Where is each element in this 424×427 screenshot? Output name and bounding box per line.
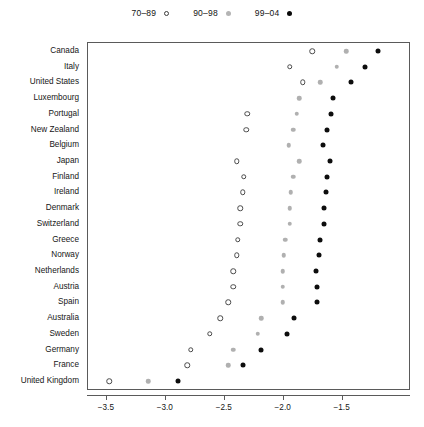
x-axis-tick-label: −3.5	[98, 403, 114, 413]
legend-entry: 70–89	[132, 8, 170, 18]
data-point	[226, 363, 231, 368]
data-point	[291, 127, 296, 132]
data-point	[280, 284, 285, 289]
data-point	[280, 300, 285, 305]
data-point	[226, 300, 232, 306]
legend-marker-open-circle-icon	[164, 11, 169, 16]
y-axis-label: Belgium	[0, 141, 83, 149]
data-point	[331, 96, 336, 101]
data-point	[230, 284, 236, 290]
data-point	[107, 378, 113, 384]
data-point	[240, 363, 245, 368]
data-point	[292, 316, 297, 321]
data-point	[297, 159, 302, 164]
data-point	[324, 190, 329, 195]
legend-marker-black-circle-icon	[287, 11, 292, 16]
x-axis-line	[87, 395, 410, 396]
x-axis-tick	[342, 395, 343, 400]
data-point	[283, 237, 288, 242]
y-axis-label: Australia	[0, 314, 83, 322]
y-axis-label: New Zealand	[0, 125, 83, 133]
data-point	[288, 206, 293, 211]
data-point	[314, 300, 319, 305]
data-point	[259, 316, 264, 321]
x-axis-tick	[106, 395, 107, 400]
data-point	[234, 253, 240, 259]
legend-entry: 90–98	[193, 8, 231, 18]
legend-entry: 99–04	[255, 8, 293, 18]
data-point	[344, 49, 349, 54]
data-point	[318, 80, 323, 85]
data-point	[231, 347, 236, 352]
y-axis-label: Switzerland	[0, 220, 83, 228]
data-point	[329, 111, 334, 116]
y-axis-label: Norway	[0, 251, 83, 259]
y-axis-label: Portugal	[0, 110, 83, 118]
data-point	[188, 347, 194, 353]
x-axis-tick-label: −2.5	[216, 403, 232, 413]
data-point	[282, 253, 287, 258]
y-axis-label: Luxembourg	[0, 94, 83, 102]
x-axis-tick-label: −2.0	[275, 403, 291, 413]
y-axis-label: United Kingdom	[0, 377, 83, 385]
y-axis-label: Germany	[0, 345, 83, 353]
data-point	[320, 143, 325, 148]
data-point	[291, 174, 296, 179]
data-point	[317, 253, 322, 258]
y-axis-label: Finland	[0, 173, 83, 181]
data-point	[318, 237, 323, 242]
x-axis-tick	[224, 395, 225, 400]
data-point	[237, 221, 243, 227]
y-axis-label: France	[0, 361, 83, 369]
data-point	[256, 332, 261, 337]
y-axis-label: United States	[0, 78, 83, 86]
data-point	[259, 347, 264, 352]
data-point	[243, 127, 249, 133]
x-axis-tick	[283, 395, 284, 400]
data-point	[217, 315, 223, 321]
chart-legend: 70–8990–9899–04	[0, 8, 424, 18]
data-point	[349, 80, 354, 85]
plot-area	[87, 42, 410, 390]
y-axis-label: Canada	[0, 47, 83, 55]
y-axis-label: Austria	[0, 283, 83, 291]
data-point	[175, 379, 180, 384]
data-point	[325, 174, 330, 179]
data-point	[327, 159, 332, 164]
legend-label: 99–04	[255, 8, 280, 18]
data-point	[245, 111, 251, 117]
data-point	[207, 331, 213, 337]
data-point	[314, 284, 319, 289]
y-axis-label: Japan	[0, 157, 83, 165]
data-point	[287, 64, 293, 70]
data-point	[335, 64, 340, 69]
x-axis-tick-label: −1.5	[334, 403, 350, 413]
y-axis-label: Netherlands	[0, 267, 83, 275]
data-point	[146, 379, 151, 384]
legend-label: 70–89	[132, 8, 157, 18]
data-point	[285, 331, 290, 336]
y-axis-label: Ireland	[0, 188, 83, 196]
y-axis-label: Sweden	[0, 330, 83, 338]
data-point	[288, 222, 293, 227]
data-point	[184, 363, 190, 369]
x-axis-tick-label: −3.0	[157, 403, 173, 413]
data-point	[237, 205, 243, 211]
data-point	[241, 174, 247, 180]
data-point	[325, 127, 330, 132]
data-point	[286, 143, 291, 148]
dot-plot-chart: 70–8990–9899–04 CanadaItalyUnited States…	[0, 0, 424, 427]
data-point	[363, 64, 368, 69]
data-point	[313, 269, 318, 274]
data-point	[234, 158, 240, 164]
data-point	[280, 269, 285, 274]
y-axis-label: Spain	[0, 298, 83, 306]
y-axis-labels: CanadaItalyUnited StatesLuxembourgPortug…	[0, 42, 83, 390]
y-axis-label: Greece	[0, 235, 83, 243]
data-point	[300, 80, 306, 86]
data-point	[235, 237, 241, 243]
data-point	[376, 49, 381, 54]
data-point	[230, 268, 236, 274]
legend-label: 90–98	[193, 8, 218, 18]
x-axis-tick	[165, 395, 166, 400]
